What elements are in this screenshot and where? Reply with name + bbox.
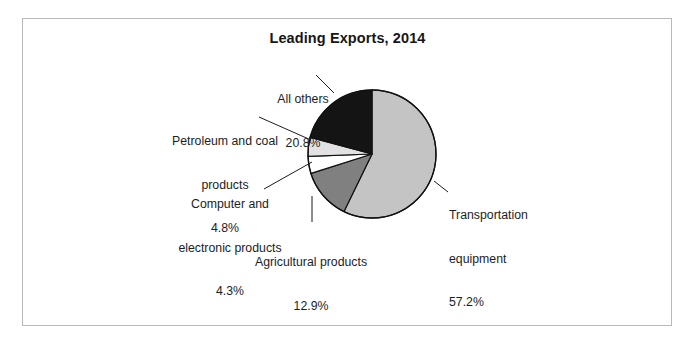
pie-label-transportation-name-2: equipment (449, 252, 569, 267)
pie-label-transportation-value: 57.2% (449, 295, 569, 310)
chart-page: Leading Exports, 2014 All (0, 0, 695, 349)
leader-line-transportation (434, 181, 448, 192)
pie-label-agricultural: Agricultural products 12.9% (228, 226, 394, 342)
pie-label-computer-name-1: Computer and (140, 197, 320, 212)
pie-chart: All others 20.8% Petroleum and coal prod… (0, 0, 695, 349)
pie-label-agricultural-name: Agricultural products (228, 255, 394, 270)
pie-label-transportation: Transportation equipment 57.2% (449, 179, 569, 339)
pie-label-agricultural-value: 12.9% (228, 299, 394, 314)
pie-label-petroleum-name-1: Petroleum and coal (140, 134, 310, 149)
pie-label-transportation-name-1: Transportation (449, 208, 569, 223)
